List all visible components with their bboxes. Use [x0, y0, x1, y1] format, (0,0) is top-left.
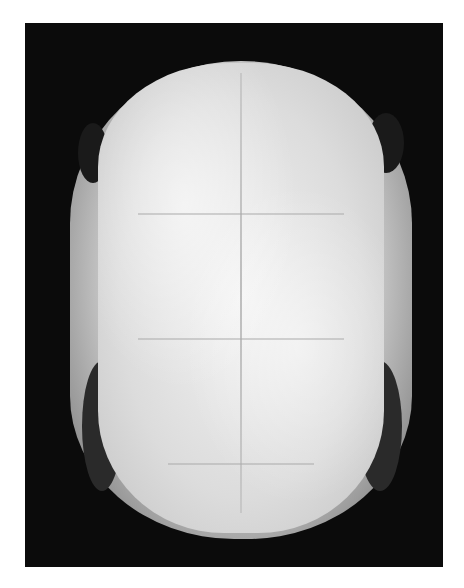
shell-central-plate	[98, 63, 384, 533]
scute-seam-2	[138, 338, 344, 340]
specimen-photo	[25, 23, 443, 567]
turtle-shell	[70, 61, 412, 539]
scute-seam-1	[138, 213, 344, 215]
midline-seam	[240, 73, 242, 513]
scute-seam-3	[168, 463, 314, 465]
